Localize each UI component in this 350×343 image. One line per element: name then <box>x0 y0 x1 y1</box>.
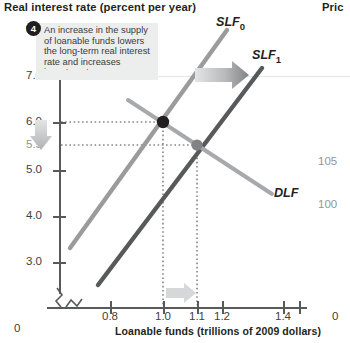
annotation-step-badge: 4 <box>26 21 41 36</box>
axis-break-mark <box>56 288 82 307</box>
curve-label-slf1-subscript: 1 <box>276 54 281 65</box>
quantity-increase-arrow <box>166 283 196 303</box>
interest-rate-fall-arrow <box>30 120 52 150</box>
curve-label-slf1: SLF1 <box>252 48 281 65</box>
curve-label-dlf: DLF <box>274 186 298 200</box>
curve-label-slf0: SLF0 <box>216 15 245 32</box>
equilibrium-point-new <box>191 139 202 150</box>
figure-canvas: Real interest rate (percent per year) Pr… <box>0 0 350 343</box>
guide-lines <box>61 122 197 305</box>
curve-label-slf0-subscript: 0 <box>240 21 245 32</box>
callout-rule-mask <box>36 70 158 80</box>
curve-label-slf0-text: SLF <box>216 15 240 29</box>
curve-label-slf1-text: SLF <box>252 48 276 62</box>
equilibrium-point-initial <box>157 116 169 128</box>
